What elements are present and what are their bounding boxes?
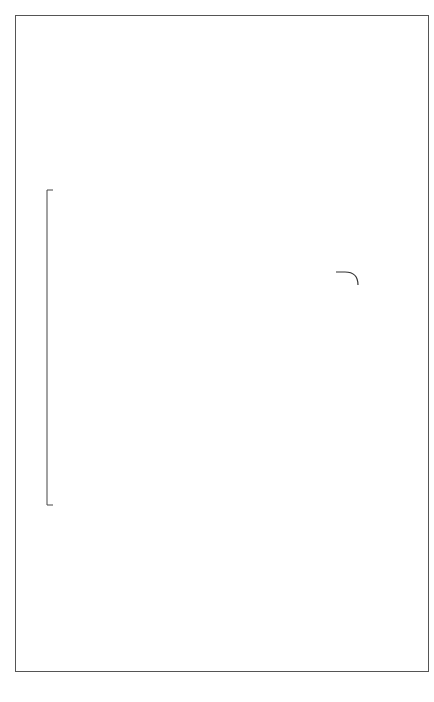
diagram-canvas <box>0 0 434 702</box>
diagram-connectors <box>0 0 434 702</box>
